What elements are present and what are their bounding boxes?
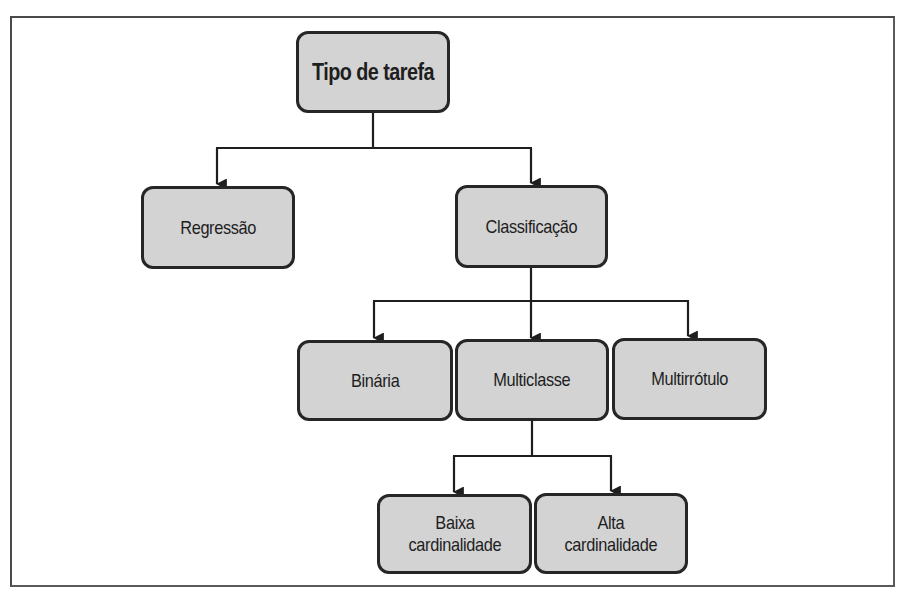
node-baixa-cardinalidade: Baixa cardinalidade [377,494,532,574]
node-label: Baixa cardinalidade [408,512,501,556]
node-classificacao: Classificação [455,185,608,268]
node-regressao: Regressão [141,186,295,269]
node-multiclasse: Multiclasse [455,339,609,421]
edge-classificacao-to-level2 [373,267,689,301]
edge-root-to-level1 [216,112,532,148]
node-label: Binária [351,370,399,392]
node-tipo-de-tarefa: Tipo de tarefa [296,31,450,113]
node-label: Classificação [486,216,578,238]
node-multirrotulo: Multirrótulo [612,338,767,420]
node-binaria: Binária [297,340,453,421]
node-label: Alta cardinalidade [565,512,658,556]
node-alta-cardinalidade: Alta cardinalidade [534,493,688,574]
node-label: Multiclasse [493,369,570,391]
node-label: Regressão [180,217,256,239]
node-label: Tipo de tarefa [312,59,434,85]
node-label: Multirrótulo [651,368,728,390]
edge-multiclasse-to-level3 [453,420,612,456]
